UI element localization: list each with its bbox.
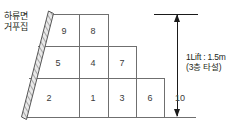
block-number-9: 9	[61, 26, 66, 36]
dim-arrowhead-down	[174, 109, 180, 117]
formwork-label-line2: 거푸집	[4, 22, 27, 33]
block-number-1: 1	[90, 93, 95, 103]
block-number-3: 3	[119, 93, 124, 103]
block-number-5: 5	[55, 58, 60, 68]
block-number-10: 10	[175, 93, 185, 103]
dim-arrowhead-up	[174, 14, 180, 22]
formwork-label-line1: 하류면	[4, 11, 27, 22]
block-number-4: 4	[90, 58, 95, 68]
block-number-7: 7	[119, 58, 124, 68]
dimension-label-line1: 1Lift : 1.5m	[186, 52, 226, 62]
diagram-canvas: 9 8 5 4 7 2 1 3 6 10 하류면 거푸집 1Lift : 1.5…	[0, 0, 244, 131]
block-number-8: 8	[90, 26, 95, 36]
dimension-label-line2: (3층 타설)	[186, 62, 226, 72]
formwork-label: 하류면 거푸집	[4, 11, 27, 33]
dimension-label: 1Lift : 1.5m (3층 타설)	[186, 52, 226, 73]
block-number-2: 2	[46, 93, 51, 103]
block-number-6: 6	[147, 93, 152, 103]
